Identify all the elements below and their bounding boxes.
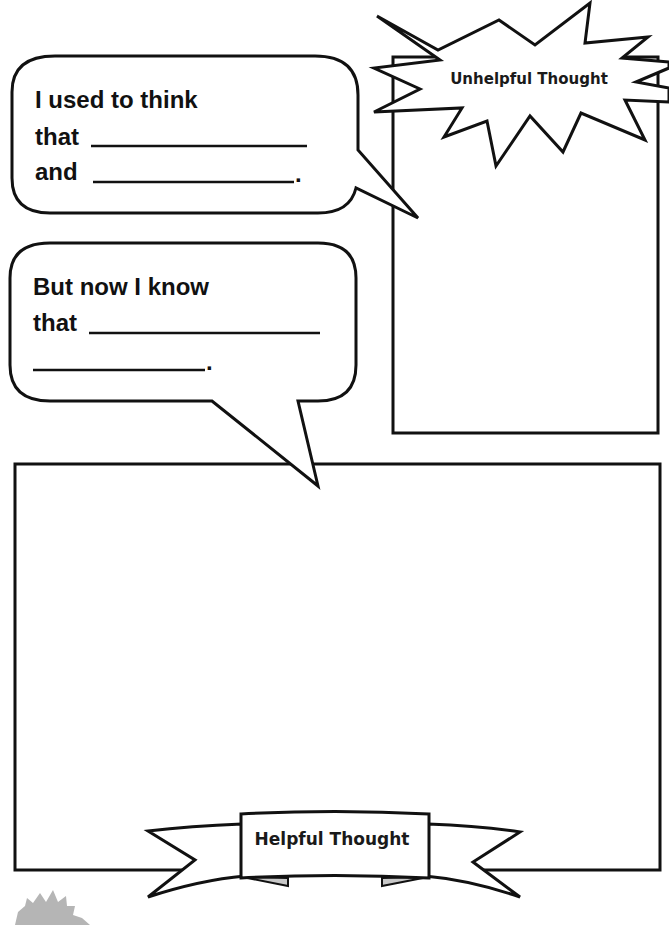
now-line-2-prefix: that: [33, 309, 77, 336]
worksheet-canvas: Unhelpful Thought I used to think that a…: [0, 0, 669, 925]
now-line-1: But now I know: [33, 273, 209, 300]
past-line-3-prefix: and: [35, 158, 78, 185]
past-line-1: I used to think: [35, 86, 198, 113]
unhelpful-thought-label: Unhelpful Thought: [450, 70, 608, 88]
past-end-period: .: [295, 160, 302, 187]
now-end-period: .: [206, 348, 213, 375]
past-line-2-prefix: that: [35, 123, 79, 150]
corner-starburst-icon: [15, 890, 90, 925]
helpful-thought-box[interactable]: [15, 464, 660, 870]
helpful-thought-label: Helpful Thought: [255, 829, 410, 849]
